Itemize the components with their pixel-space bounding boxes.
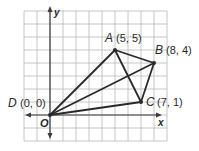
axes: y x O bbox=[25, 6, 164, 139]
vertex-b-dot bbox=[152, 61, 156, 65]
point-b-name: B bbox=[155, 43, 163, 57]
point-b: B (8, 4) bbox=[155, 43, 192, 57]
vertex-c-dot bbox=[139, 100, 143, 104]
point-c: C (7, 1) bbox=[146, 95, 183, 109]
point-c-coords: (7, 1) bbox=[157, 96, 183, 108]
point-d: D (0, 0) bbox=[8, 96, 46, 110]
point-d-coords: (0, 0) bbox=[20, 97, 46, 109]
x-axis-label: x bbox=[157, 117, 164, 128]
vertex-a-dot bbox=[113, 48, 117, 52]
y-axis-down-arrow-icon bbox=[48, 133, 53, 139]
origin-label: O bbox=[40, 117, 49, 129]
x-axis-left-arrow-icon bbox=[25, 113, 31, 118]
point-b-coords: (8, 4) bbox=[166, 44, 192, 56]
y-axis-label: y bbox=[53, 7, 60, 18]
vertex-d-dot bbox=[48, 113, 52, 117]
point-a: A (5, 5) bbox=[104, 31, 142, 45]
point-a-coords: (5, 5) bbox=[116, 32, 142, 44]
points: A (5, 5) B (8, 4) C (7, 1) D (0, 0) bbox=[8, 31, 192, 110]
y-axis-up-arrow-icon bbox=[48, 6, 53, 12]
point-c-name: C bbox=[146, 95, 155, 109]
point-a-name: A bbox=[104, 31, 113, 45]
segment-da bbox=[50, 50, 115, 115]
coordinate-plane: y x O A (5, 5) B (8, 4) C (7, 1) D (0, 0… bbox=[0, 0, 199, 151]
point-d-name: D bbox=[8, 96, 17, 110]
